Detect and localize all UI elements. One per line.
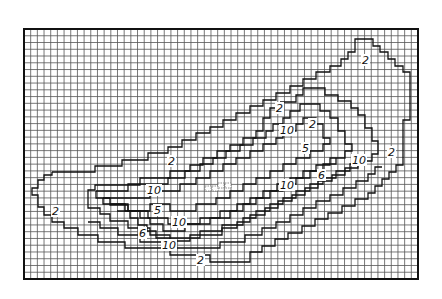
contour-value-label: 2	[197, 254, 204, 267]
contour-value-label: 5	[302, 142, 309, 155]
contour-value-label: 6	[318, 169, 325, 182]
contour-value-label: 2	[276, 102, 283, 115]
contour-value-label: 10	[172, 216, 186, 229]
marked-cell	[205, 186, 211, 191]
contour-value-label: 6	[139, 227, 146, 240]
contour-value-label: 10	[147, 184, 161, 197]
contour-value-label: 2	[52, 205, 59, 218]
marked-cell	[212, 186, 218, 191]
contour-map: 22102510210621051061022	[0, 0, 442, 299]
marked-cell	[218, 183, 224, 188]
contour-value-label: 2	[168, 155, 175, 168]
contour-value-label: 10	[280, 179, 294, 192]
contour-value-label: 10	[162, 239, 176, 252]
contour-value-label: 10	[280, 124, 294, 137]
marked-cell	[225, 183, 231, 188]
contour-value-label: 2	[362, 54, 369, 67]
contour-value-label: 2	[388, 146, 395, 159]
contour-value-label: 2	[309, 118, 316, 131]
contour-value-label: 10	[352, 154, 366, 167]
contour-value-label: 5	[154, 204, 161, 217]
